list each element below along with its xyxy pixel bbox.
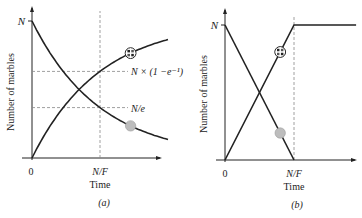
y-tick-label-n: N	[210, 19, 219, 31]
x-tick-label-0: 0	[29, 166, 34, 177]
panel-b: N 0 N/F Time (b) Number of marbles	[198, 8, 357, 211]
series-line-increasing	[225, 25, 356, 160]
y-axis-arrow-icon	[223, 8, 227, 14]
x-axis-arrow-icon	[156, 156, 162, 160]
y-axis-label: Number of marbles	[198, 55, 209, 133]
x-axis-label: Time	[90, 179, 111, 190]
panel-label: (b)	[291, 199, 303, 211]
x-tick-label-nf: N/F	[91, 166, 108, 177]
figure: N N × (1 −e⁻¹)N/e 0 N/F Time (a) Number …	[0, 0, 362, 218]
gray-marble-marker	[275, 128, 285, 138]
x-axis-label: Time	[284, 181, 305, 192]
y-axis-label: Number of marbles	[5, 53, 16, 131]
checkered-marble-marker	[275, 47, 286, 58]
y-tick-label-n: N	[17, 15, 26, 27]
x-tick-label-0: 0	[223, 168, 228, 179]
checkered-marble-marker	[125, 48, 136, 59]
panel-label: (a)	[98, 197, 110, 209]
reference-line-label: N × (1 −e⁻¹)	[130, 66, 184, 78]
y-axis-arrow-icon	[30, 6, 34, 12]
x-tick-label-nf: N/F	[285, 168, 302, 179]
gray-marble-marker	[125, 121, 135, 131]
reference-line-label: N/e	[130, 103, 145, 114]
x-axis-arrow-icon	[351, 158, 357, 162]
panel-a: N N × (1 −e⁻¹)N/e 0 N/F Time (a) Number …	[5, 6, 184, 209]
